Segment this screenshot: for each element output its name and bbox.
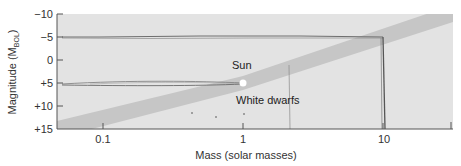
y-tick-label: −5	[40, 31, 53, 43]
white-dwarf-point	[243, 113, 245, 115]
y-tick-label: −10	[34, 8, 53, 20]
y-tick-label: 0	[47, 54, 53, 66]
x-axis-title: Mass (solar masses)	[195, 149, 296, 161]
y-tick-label: +10	[34, 100, 53, 112]
white-dwarf-point	[215, 116, 217, 118]
x-tick-label: 1	[240, 133, 246, 145]
sun-marker	[240, 80, 247, 87]
y-tick-label: +5	[40, 77, 53, 89]
y-tick-label: +15	[34, 123, 53, 135]
sun-label: Sun	[232, 59, 252, 71]
white-dwarf-point	[191, 112, 193, 114]
white-dwarfs-label: White dwarfs	[236, 94, 300, 106]
x-tick-label: 10	[378, 133, 390, 145]
x-tick-label: 0.1	[95, 133, 110, 145]
mass-magnitude-chart: −10 −5 0 +5 +10 +15 0.1 1 10 Mass (solar…	[0, 0, 461, 166]
y-axis-title: Magnitude (MBOL)	[6, 30, 20, 115]
